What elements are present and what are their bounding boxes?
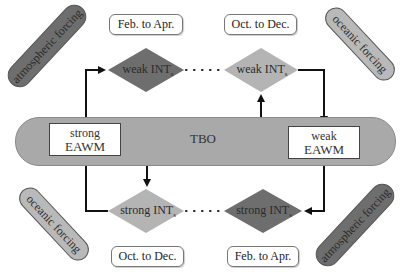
- arrow-weak-eawm-to-strong-ints: [306, 159, 324, 211]
- weak-eawm-box: weak EAWM: [288, 126, 360, 159]
- weak-eawm-line1: weak: [311, 129, 336, 143]
- diamond-label-top-right: weak INTs: [236, 62, 287, 78]
- strong-eawm-box: strong EAWM: [49, 123, 121, 156]
- diamond-text: strong INT: [120, 203, 173, 217]
- season-bottom-left: Oct. to Dec.: [111, 246, 184, 267]
- season-top-right: Oct. to Dec.: [224, 14, 297, 35]
- diamond-text: weak INT: [236, 62, 284, 76]
- diamond-subscript: s: [285, 70, 288, 78]
- tbo-label: TBO: [190, 131, 216, 147]
- diamond-subscript: s: [171, 70, 174, 78]
- strong-eawm-line2: EAWM: [65, 140, 105, 154]
- diamond-subscript: s: [289, 211, 292, 219]
- arrow-strong-ints-to-strong-eawm: [86, 159, 108, 211]
- diamond-text: strong INT: [236, 203, 289, 217]
- diamond-label-top-left: weak INTs: [122, 62, 173, 78]
- season-top-left: Feb. to Apr.: [109, 14, 183, 35]
- weak-eawm-line2: EAWM: [304, 143, 344, 157]
- season-bottom-right: Feb. to Apr.: [227, 246, 299, 267]
- strong-eawm-line1: strong: [70, 126, 100, 140]
- diamond-text: weak INT: [122, 62, 170, 76]
- diamond-subscript: s: [173, 211, 176, 219]
- arrow-weak-ints-to-weak-eawm: [298, 70, 324, 122]
- arrow-strong-eawm-to-weak-ints: [86, 70, 104, 117]
- diamond-label-bottom-right: strong INTs: [236, 203, 292, 219]
- diamond-label-bottom-left: strong INTs: [120, 203, 176, 219]
